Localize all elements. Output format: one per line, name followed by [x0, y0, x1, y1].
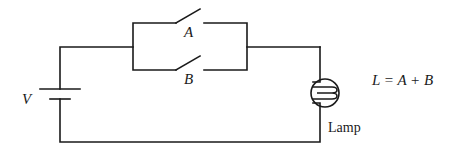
- parallel-block: [133, 23, 320, 82]
- battery-icon: [40, 89, 80, 99]
- source-label: V: [22, 91, 33, 107]
- switch-a-icon: [176, 9, 200, 23]
- circuit-diagram: V A B Lamp L = A + B: [0, 0, 462, 152]
- switch-b-label: B: [184, 71, 193, 87]
- switch-b-icon: [176, 56, 200, 70]
- equation-label: L = A + B: [371, 72, 433, 88]
- lamp-label: Lamp: [328, 120, 361, 135]
- lamp-icon: [311, 79, 339, 107]
- switch-a-label: A: [183, 24, 194, 40]
